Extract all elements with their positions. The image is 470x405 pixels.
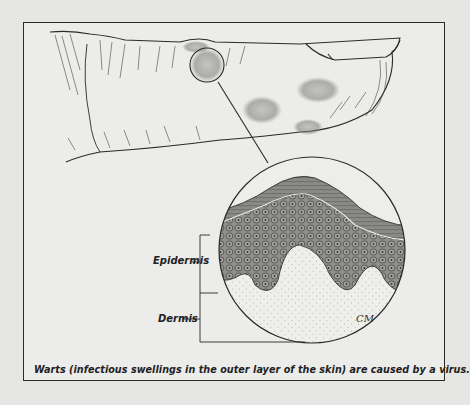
small-magnifier-circle [190,48,224,82]
dermis-label: Dermis [158,313,198,324]
figure-caption: Warts (infectious swellings in the outer… [34,364,470,375]
epidermis-label: Epidermis [153,255,209,266]
finger-drawing [50,31,400,162]
artist-signature: CM [356,313,375,324]
